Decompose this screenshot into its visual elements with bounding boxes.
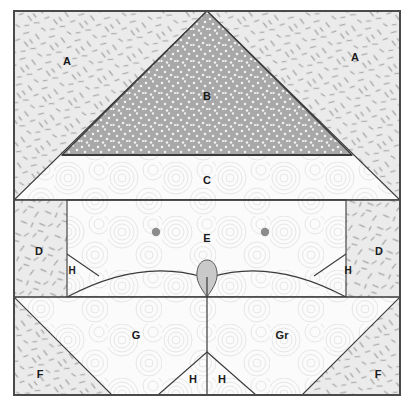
label-f-left: F — [37, 368, 44, 380]
label-h-mid-right: H — [344, 265, 351, 276]
upper-band — [14, 11, 400, 200]
label-g: G — [132, 329, 141, 341]
label-a-right: A — [351, 51, 359, 63]
label-h-low-right: H — [218, 373, 226, 385]
label-h-low-left: H — [189, 373, 197, 385]
label-a-left: A — [63, 55, 71, 67]
label-b: B — [203, 90, 211, 102]
label-c: C — [203, 174, 211, 186]
cross-section-diagram: A A B C D D E H H F F G Gr H H — [0, 0, 413, 412]
label-e: E — [203, 232, 210, 244]
label-d-left: D — [35, 245, 43, 257]
label-gr: Gr — [276, 329, 290, 341]
label-d-right: D — [375, 245, 383, 257]
marker-dot-left — [152, 228, 160, 236]
label-h-mid-left: H — [68, 265, 75, 276]
diagram-canvas: A A B C D D E H H F F G Gr H H — [0, 0, 413, 412]
label-f-right: F — [375, 368, 382, 380]
marker-dot-right — [261, 228, 269, 236]
